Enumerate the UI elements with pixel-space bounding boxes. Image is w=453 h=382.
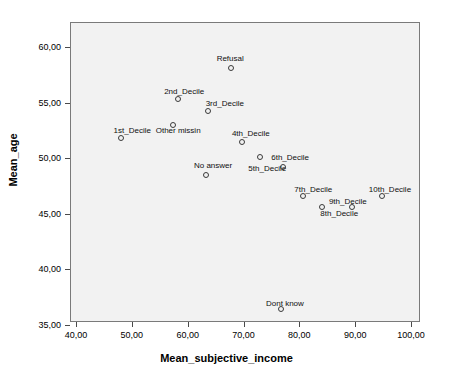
x-axis-tick (76, 322, 77, 327)
x-axis-tick-label: 40,00 (65, 330, 88, 340)
data-point-label: Other missin (156, 126, 201, 135)
y-axis-tick-label: 45,00 (20, 209, 61, 219)
x-axis-tick (299, 322, 300, 327)
x-axis-tick-label: 80,00 (288, 330, 311, 340)
y-axis-tick-label: 40,00 (20, 264, 61, 274)
data-point-label: 3rd_Decile (206, 99, 244, 108)
data-point-label: 9th_Decile (329, 197, 367, 206)
scatter-chart: Mean_age Mean_subjective_income 35,0040,… (0, 0, 453, 382)
data-point-label: Refusal (217, 54, 244, 63)
x-axis-tick-label: 70,00 (232, 330, 255, 340)
y-axis-tick (65, 269, 70, 270)
scan-artifact-band (0, 368, 453, 382)
data-point-label: 1st_Decile (114, 126, 151, 135)
data-point-label: 10th_Decile (369, 185, 411, 194)
y-axis-tick-label: 60,00 (20, 42, 61, 52)
data-point-label: 4th_Decile (232, 129, 270, 138)
y-axis-tick-label: 50,00 (20, 153, 61, 163)
x-axis-tick-label: 100,00 (397, 330, 425, 340)
y-axis-tick (65, 325, 70, 326)
y-axis-tick (65, 158, 70, 159)
data-point-label: No answer (194, 161, 232, 170)
data-point-label: 8th_Decile (320, 209, 358, 218)
y-axis-title: Mean_age (7, 115, 19, 205)
y-axis-tick-label: 55,00 (20, 98, 61, 108)
data-point-label: 6th_Decile (271, 153, 309, 162)
data-point (239, 139, 245, 145)
x-axis-tick (244, 322, 245, 327)
x-axis-tick (355, 322, 356, 327)
x-axis-title: Mean_subjective_income (0, 352, 453, 364)
data-point (203, 172, 209, 178)
x-axis-tick-label: 90,00 (344, 330, 367, 340)
plot-area (70, 22, 420, 322)
x-axis-tick-label: 50,00 (121, 330, 144, 340)
x-axis-tick (132, 322, 133, 327)
y-axis-tick (65, 214, 70, 215)
y-axis-tick (65, 47, 70, 48)
y-axis-tick (65, 103, 70, 104)
data-point-label: 2nd_Decile (164, 87, 204, 96)
x-axis-tick-label: 60,00 (176, 330, 199, 340)
x-axis-tick (411, 322, 412, 327)
x-axis-tick (188, 322, 189, 327)
data-point-label: 7th_Decile (294, 185, 332, 194)
y-axis-tick-label: 35,00 (20, 320, 61, 330)
data-point-label: Dont know (266, 299, 304, 308)
